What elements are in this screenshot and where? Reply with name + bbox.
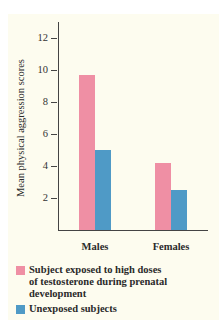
legend-item-exposed: Subject exposed to high doses of testost… [16,264,216,300]
legend-item-unexposed: Unexposed subjects [16,303,216,315]
y-tick-label: 6 [28,128,48,140]
bar-males-exposed [79,75,95,230]
y-tick [51,102,57,103]
y-axis-line [58,22,59,231]
legend-swatch-blue [16,305,25,314]
category-label-females: Females [141,241,201,252]
legend-label-line: Unexposed subjects [29,303,216,315]
y-tick [51,38,57,39]
y-axis-label: Mean physical aggression scores [15,28,26,228]
y-tick-label: 8 [28,96,48,108]
y-tick [51,134,57,135]
legend: Subject exposed to high doses of testost… [16,264,216,318]
legend-label-line: Subject exposed to high doses [29,264,216,276]
legend-label-line: of testosterone during prenatal [29,276,216,288]
y-tick-label: 2 [28,192,48,204]
y-tick [51,166,57,167]
y-tick-label: 12 [28,32,48,44]
y-tick-label: 4 [28,160,48,172]
bar-females-unexposed [171,190,187,230]
bar-males-unexposed [95,150,111,230]
y-tick-label: 10 [28,64,48,76]
legend-swatch-pink [16,266,25,275]
legend-label-line: development [29,288,216,300]
category-label-males: Males [65,241,125,252]
bar-females-exposed [155,163,171,230]
x-axis-line [58,230,208,231]
y-tick [51,70,57,71]
y-tick [51,198,57,199]
